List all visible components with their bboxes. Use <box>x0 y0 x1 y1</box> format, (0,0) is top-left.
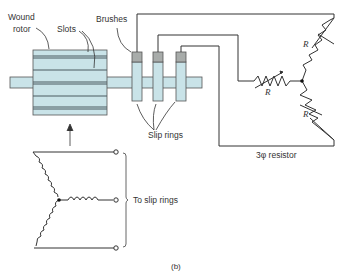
brushes <box>132 52 186 62</box>
resistor-r-top-label: R <box>303 40 309 49</box>
to-slip-rings-label: To slip rings <box>133 196 178 205</box>
rotor-body <box>33 50 107 115</box>
figure-label: (b) <box>171 263 181 271</box>
resistor-wye <box>254 18 334 140</box>
slip-rings <box>132 62 186 101</box>
resistor-r-bottom-label: R <box>303 110 309 119</box>
resistor-r-left-label: R <box>265 88 271 97</box>
wound-rotor-diagram: Wound rotor Slots Brushes Slip rings R R… <box>0 0 342 278</box>
slip-rings-label: Slip rings <box>148 131 183 140</box>
wye-winding-schematic <box>33 150 128 250</box>
slots-label: Slots <box>57 25 76 34</box>
winding-junction-dot <box>57 198 61 202</box>
brushes-label: Brushes <box>96 15 127 24</box>
wound-rotor-label-line1: Wound <box>8 13 35 22</box>
wound-rotor-label-line2: rotor <box>13 25 30 34</box>
wye-junction-dot <box>300 79 304 83</box>
three-phase-resistor-label: 3φ resistor <box>256 151 296 160</box>
